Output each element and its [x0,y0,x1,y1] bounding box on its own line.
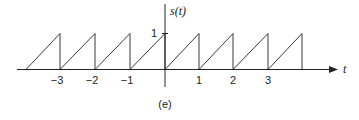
x-tick-label: 3 [265,74,271,86]
x-tick-labels: −3 −2 −1 1 2 3 [51,74,271,86]
x-tick-label: 1 [196,74,202,86]
x-tick-label: −2 [86,74,99,86]
x-tick-label: −3 [51,74,64,86]
x-axis-arrow-icon [329,66,338,73]
x-tick-label: 2 [230,74,236,86]
figure-caption: (e) [158,98,171,110]
sawtooth-diagram: t s(t) 1 −3 −2 −1 1 2 3 (e) [0,0,359,120]
sawtooth-waveform [26,34,302,70]
x-axis-label: t [343,62,347,76]
y-tick-label: 1 [151,27,157,39]
x-tick-label: −1 [121,74,134,86]
y-axis-label: s(t) [170,4,186,18]
